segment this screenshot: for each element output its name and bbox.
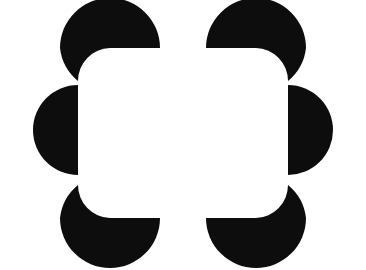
figure-canvas — [0, 0, 366, 270]
illusory-contour-figure — [0, 0, 366, 270]
